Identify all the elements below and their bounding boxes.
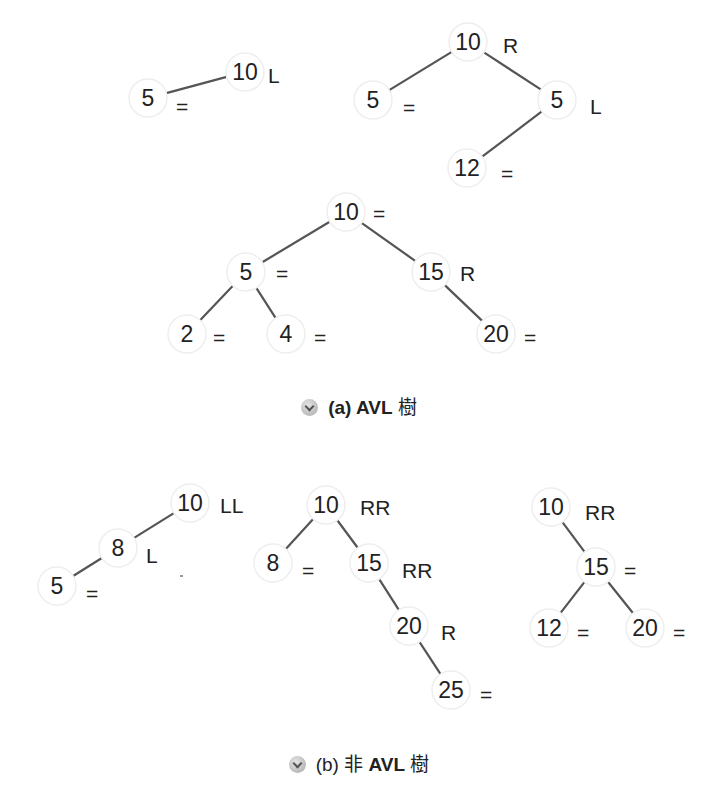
balance-factor: = [176,95,188,118]
tree-node: 10RR [307,486,390,524]
tree-b3: 10RR15=12=20= [530,488,685,647]
node-value: 10 [313,492,339,518]
balance-factor: = [577,621,589,644]
tree-node: 4= [267,315,326,353]
tree-node: 5= [38,567,98,605]
tree-node: 12= [448,149,513,187]
balance-factor: R [460,262,475,285]
tree-b2-edges [286,519,441,674]
node-value: 20 [483,321,509,347]
tree-edge [379,579,399,610]
node-value: 8 [112,535,125,561]
tree-edge [200,286,233,320]
balance-factor: = [403,96,415,119]
balance-factor: = [480,683,492,706]
tree-node: 12= [530,609,589,647]
tree-node: 5= [354,81,415,119]
collapse-chevron-icon[interactable] [289,756,306,773]
balance-factor: RR [402,559,432,582]
balance-factor: = [373,202,385,225]
node-value: 4 [280,321,293,347]
tree-node: 5L [538,81,602,119]
caption-b-suffix: 樹 [410,753,429,775]
tree-edge [482,111,542,156]
tree-edge [389,52,452,90]
node-value: 10 [538,494,564,520]
balance-factor: R [441,621,456,644]
caption-a-label: (a) AVL [328,397,392,418]
tree-node: 5= [129,79,188,118]
node-value: 5 [240,259,253,285]
node-value: 5 [51,573,64,599]
tree-edge [561,582,585,613]
balance-factor: = [524,326,536,349]
balance-factor: RR [360,496,390,519]
balance-factor: = [673,621,685,644]
node-value: 5 [551,87,564,113]
tree-node: 15= [577,548,636,586]
node-value: 15 [583,554,609,580]
tree-node: 5= [227,253,288,291]
tree-node: 8= [254,544,314,582]
edges-layer [73,52,633,674]
tree-a3: 10=5=15R2=4=20= [168,193,536,353]
tree-a1: 10L5= [129,53,280,118]
node-value: 5 [142,85,155,111]
node-value: 2 [181,321,194,347]
tree-a1-edges [166,77,226,93]
tree-node: 20R [390,607,456,645]
caption-b-mid: 非 [344,753,363,775]
tree-a2: 10R5=5L12= [354,23,602,187]
balance-factor: = [213,326,225,349]
caption-a-suffix: 樹 [398,396,417,418]
tree-edge [562,522,584,552]
balance-factor: LL [220,494,243,517]
node-value: 15 [418,259,444,285]
tree-edge [419,642,440,674]
node-value: 10 [455,29,481,55]
balance-factor: = [314,326,326,349]
tree-node: 15R [412,253,475,291]
caption-b-label: AVL [368,754,405,775]
tree-node: 20= [626,609,685,647]
node-value: 25 [438,677,464,703]
node-value: 12 [536,615,562,641]
tree-b2: 10RR8=15RR20R25= [254,486,492,709]
node-value: 12 [454,155,480,181]
balance-factor: L [146,544,158,567]
balance-factor: L [590,95,602,118]
tree-node: 20= [477,315,536,353]
collapse-chevron-icon[interactable] [301,399,318,416]
node-value: 10 [333,199,359,225]
tree-edge [286,519,313,549]
node-value: 8 [267,550,280,576]
node-value: 10 [232,59,258,85]
balance-factor: = [86,582,98,605]
caption-b-prefix: (b) [316,754,339,775]
tree-node: 15RR [350,544,432,582]
balance-factor: = [276,262,288,285]
tree-edge [445,285,483,321]
tree-b1: 10LL8L5= [38,484,243,605]
node-value: 15 [356,550,382,576]
tree-edge [484,52,541,89]
balance-factor: L [268,64,280,87]
tree-node: 10= [327,193,385,231]
tree-edge [362,223,416,261]
node-value: 20 [396,613,422,639]
node-value: 5 [367,87,380,113]
tree-edge [134,513,174,538]
balance-factor: = [302,559,314,582]
tree-edge [337,520,357,547]
tree-node: 10RR [532,488,615,526]
node-value: 10 [177,490,203,516]
tree-node: 8L [99,529,158,567]
tree-edge [73,558,102,576]
tree-node: 10LL [171,484,243,522]
balance-factor: R [503,34,518,57]
tree-node: 10R [449,23,518,61]
balance-factor: RR [585,501,615,524]
tree-node: 25= [432,671,492,709]
node-value: 20 [632,615,658,641]
balance-factor: = [501,162,513,185]
